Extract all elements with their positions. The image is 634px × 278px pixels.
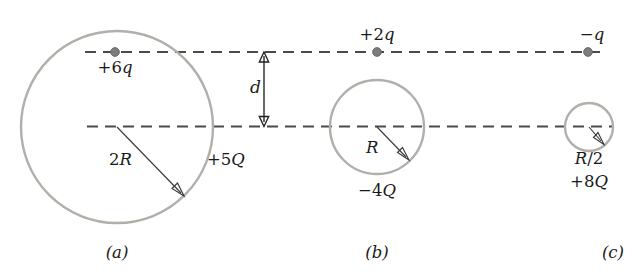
physics-figure: +6q 2R +5Q (a) d +2q R −4Q (b) −q R/2 +8… bbox=[0, 0, 634, 278]
point-charge-dot-a bbox=[111, 48, 120, 57]
radius-label-a: 2R bbox=[109, 152, 132, 169]
shell-charge-label-c: +8Q bbox=[570, 174, 608, 191]
radius-arrow-b bbox=[377, 127, 406, 157]
point-charge-label-c: −q bbox=[580, 27, 604, 44]
panel-caption-c: (c) bbox=[602, 245, 624, 262]
separation-label: d bbox=[250, 79, 261, 96]
shell-charge-label-b: −4Q bbox=[358, 183, 396, 200]
figure-canvas bbox=[0, 0, 634, 278]
point-charge-label-b: +2q bbox=[360, 27, 395, 44]
radius-label-c: R/2 bbox=[575, 151, 604, 168]
panel-caption-b: (b) bbox=[365, 245, 388, 262]
point-charge-dot-b bbox=[373, 48, 382, 57]
point-charge-dot-c bbox=[584, 48, 593, 57]
radius-label-b: R bbox=[366, 140, 378, 157]
shell-charge-label-a: +5Q bbox=[207, 152, 245, 169]
panel-caption-a: (a) bbox=[106, 245, 129, 262]
point-charge-label-a: +6q bbox=[98, 60, 133, 77]
